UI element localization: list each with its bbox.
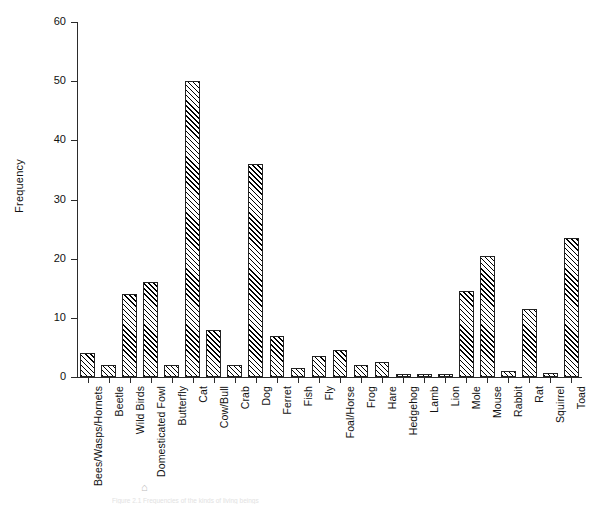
y-axis-tick: 10: [71, 318, 77, 319]
x-axis-tick: [109, 378, 110, 383]
x-axis-tick-label: Rabbit: [512, 386, 524, 417]
y-axis-tick: 20: [71, 259, 77, 260]
x-axis-tick: [508, 378, 509, 383]
x-axis-tick: [172, 378, 173, 383]
x-axis-tick-label: Domesticated Fowl: [155, 386, 167, 477]
x-axis-tick: [571, 378, 572, 383]
x-axis-tick-label: Cat: [197, 386, 209, 403]
x-axis-tick-label: Fish: [302, 386, 314, 406]
y-axis-tick: 50: [71, 81, 77, 82]
x-axis-tick: [466, 378, 467, 383]
y-axis-tick-label: 50: [54, 74, 66, 86]
bar: [143, 282, 158, 377]
bar: [501, 371, 516, 377]
x-axis-tick-label: Ferret: [281, 386, 293, 415]
x-axis-tick-label: Beetle: [113, 386, 125, 416]
x-axis-tick: [235, 378, 236, 383]
x-axis-tick: [88, 378, 89, 383]
x-axis-tick: [193, 378, 194, 383]
bar: [459, 291, 474, 377]
bar: [101, 365, 116, 377]
x-axis-tick-label: Butterfly: [176, 386, 188, 425]
bar: [164, 365, 179, 377]
y-axis-tick-label: 30: [54, 193, 66, 205]
bar: [80, 353, 95, 377]
y-axis-tick-label: 0: [60, 370, 66, 382]
bar: [333, 350, 348, 377]
y-axis-tick: 40: [71, 140, 77, 141]
y-axis-label: Frequency: [13, 146, 25, 226]
bar: [354, 365, 369, 377]
x-axis-tick-label: Mouse: [491, 386, 503, 418]
y-axis-tick: 30: [71, 200, 77, 201]
bar: [248, 164, 263, 377]
x-axis-tick: [403, 378, 404, 383]
y-axis-tick-label: 40: [54, 133, 66, 145]
bar: [417, 374, 432, 377]
x-axis-tick: [277, 378, 278, 383]
x-axis-tick-label: Frog: [365, 386, 377, 408]
x-axis-tick-label: Hedgehog: [407, 386, 419, 435]
x-axis-tick-label: Bees/Wasps/Hornets: [92, 386, 104, 486]
bar: [291, 368, 306, 377]
bar: [480, 256, 495, 377]
x-axis-tick-label: Lamb: [428, 386, 440, 413]
bar: [543, 373, 558, 377]
x-axis-tick: [256, 378, 257, 383]
bar: [522, 309, 537, 377]
figure-caption: Figure 2.1 Frequencies of the kinds of l…: [112, 497, 532, 504]
bar: [227, 365, 242, 377]
x-axis-tick: [298, 378, 299, 383]
x-axis-tick: [487, 378, 488, 383]
top-caption-remnant: [150, 0, 450, 7]
x-axis-tick-label: Wild Birds: [134, 386, 146, 434]
y-axis-line: [77, 22, 78, 378]
x-axis-line: [77, 377, 582, 378]
x-axis-tick-label: Rat: [533, 386, 545, 403]
figure-container: Frequency 0102030405060 Bees/Wasps/Horne…: [0, 0, 597, 514]
x-axis-tick-label: Lion: [449, 386, 461, 406]
x-axis-tick: [550, 378, 551, 383]
x-axis-tick: [382, 378, 383, 383]
bar: [270, 336, 285, 377]
x-axis-tick: [214, 378, 215, 383]
x-axis-tick-label: Squirrel: [554, 386, 566, 423]
y-axis-tick: 0: [71, 377, 77, 378]
x-axis-tick-label: Mole: [470, 386, 482, 409]
x-axis-tick: [529, 378, 530, 383]
x-axis-tick: [424, 378, 425, 383]
x-axis-tick: [319, 378, 320, 383]
x-axis-tick-label: Fly: [323, 386, 335, 400]
y-axis-tick-label: 20: [54, 252, 66, 264]
x-axis-tick: [361, 378, 362, 383]
plot-area: 0102030405060 Bees/Wasps/HornetsBeetleWi…: [77, 22, 582, 377]
bar: [396, 374, 411, 377]
bar: [185, 81, 200, 377]
x-axis-tick: [445, 378, 446, 383]
bar: [438, 374, 453, 377]
x-axis-tick: [340, 378, 341, 383]
x-axis-tick-label: Dog: [260, 386, 272, 406]
caption-glyph: ⌂: [141, 481, 148, 493]
x-axis-tick-label: Toad: [575, 386, 587, 409]
bar: [564, 238, 579, 377]
x-axis-tick-label: Cow/Bull: [218, 386, 230, 428]
bar: [206, 330, 221, 377]
x-axis-tick: [130, 378, 131, 383]
bar: [122, 294, 137, 377]
y-axis-tick: 60: [71, 22, 77, 23]
x-axis-tick-label: Hare: [386, 386, 398, 409]
bar: [375, 362, 390, 377]
x-axis-tick: [151, 378, 152, 383]
y-axis-tick-label: 60: [54, 15, 66, 27]
x-axis-tick-label: Crab: [239, 386, 251, 409]
bar: [312, 356, 327, 377]
y-axis-tick-label: 10: [54, 311, 66, 323]
x-axis-tick-label: Foal/Horse: [344, 386, 356, 438]
